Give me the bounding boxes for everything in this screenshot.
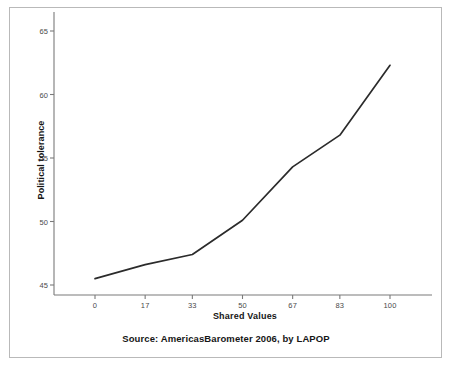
x-tick-label: 50 [238, 301, 247, 310]
plot-area: 4550556065 01733506783100 Political tole… [0, 0, 451, 370]
x-tick-marks [95, 295, 390, 299]
x-tick-label: 100 [384, 301, 397, 310]
axes-group [54, 12, 432, 295]
y-tick-marks [50, 31, 54, 285]
x-axis-title: Shared Values [55, 311, 435, 321]
x-tick-label: 67 [288, 301, 297, 310]
x-tick-label: 17 [141, 301, 150, 310]
chart-screenshot: 4550556065 01733506783100 Political tole… [0, 0, 451, 370]
y-tick-label: 65 [26, 27, 48, 36]
source-caption: Source: AmericasBarometer 2006, by LAPOP [20, 333, 432, 344]
line-series-political-tolerance [95, 65, 390, 278]
y-tick-label: 60 [26, 90, 48, 99]
data-series-group [95, 65, 390, 278]
y-tick-label: 45 [26, 281, 48, 290]
x-tick-label: 33 [188, 301, 197, 310]
x-tick-label: 0 [93, 301, 97, 310]
y-axis-title: Political tolerance [36, 100, 46, 220]
x-tick-label: 83 [336, 301, 345, 310]
